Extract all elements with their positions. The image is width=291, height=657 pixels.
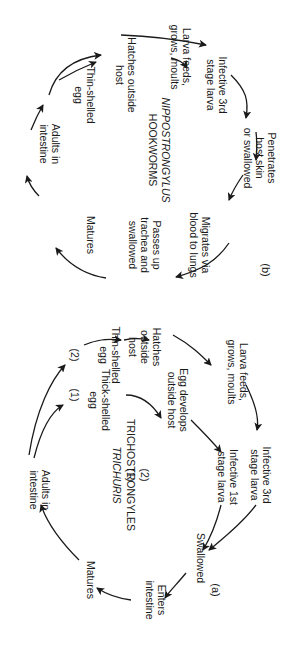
arrow-a-infective3-to-swallowed	[209, 505, 256, 550]
arrow-a-develops-to-infective1	[191, 420, 221, 452]
arrow-a-thick-to-develops	[126, 395, 161, 418]
arrow-a-larva-to-infective3	[246, 385, 258, 430]
arrow-a-adults-to-2	[29, 365, 65, 455]
life-cycle-figure: Adults in intestine Thin-shelled egg Hat…	[0, 0, 291, 657]
cycle-arrows-a	[0, 0, 291, 657]
arrow-a-swallowed-to-enters	[165, 573, 186, 598]
arrow-a-infective1-to-swallowed	[203, 505, 221, 550]
arrow-a-matures-to-adults	[41, 505, 79, 560]
arrow-a-2-to-thin	[84, 339, 121, 345]
arrow-a-enters-to-matures	[97, 588, 131, 600]
arrow-a-hatch-to-larva	[173, 335, 211, 365]
